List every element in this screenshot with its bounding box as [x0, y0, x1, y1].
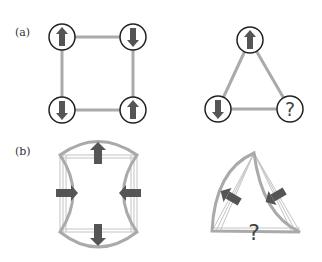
square-lattice-a: [49, 24, 146, 123]
spin-site-bottom-left: [205, 96, 231, 122]
panel-b-label: (b): [15, 145, 31, 158]
panel-a-label: (a): [15, 26, 30, 39]
force-arrows: [217, 184, 289, 209]
spin-site-bottom-left: [49, 97, 75, 123]
spin-site-top: [237, 27, 263, 53]
square-bonds: [62, 37, 133, 110]
distorted-square-b: [56, 142, 141, 248]
arrow-down-icon: [90, 224, 106, 246]
arrow-right-icon: [56, 185, 78, 201]
unknown-spin-question-mark: ?: [285, 98, 295, 120]
spin-site-bottom-right: ?: [277, 96, 303, 122]
unknown-state-question-mark: ?: [248, 220, 260, 245]
spin-site-top-left: [49, 24, 75, 50]
spin-site-top-right: [120, 24, 146, 50]
spin-site-bottom-right: [120, 97, 146, 123]
distorted-triangle-b: ?: [212, 153, 300, 245]
arrow-up-icon: [90, 142, 106, 164]
frustration-diagram: (a): [0, 0, 322, 262]
triangle-lattice-a: ?: [205, 27, 303, 122]
